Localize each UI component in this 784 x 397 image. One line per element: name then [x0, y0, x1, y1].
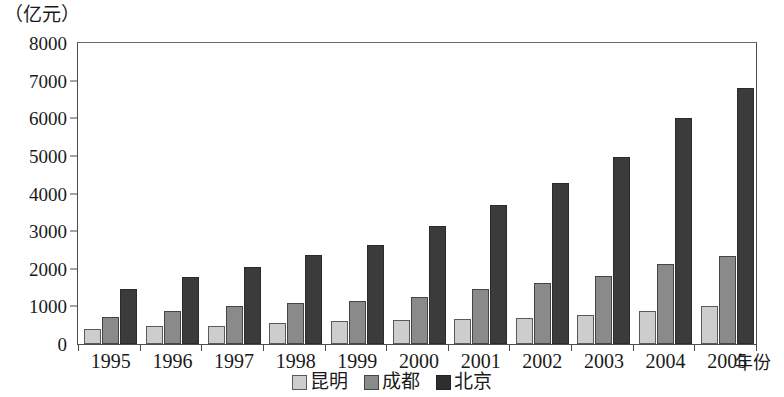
bar-cluster — [516, 43, 569, 344]
bar-昆明-2005 — [701, 306, 718, 344]
bar-cluster — [454, 43, 507, 344]
x-axis-tick-label: 1996 — [152, 350, 192, 372]
legend: 昆明成都北京 — [0, 372, 784, 392]
legend-swatch-icon — [436, 375, 451, 390]
bar-昆明-1997 — [208, 326, 225, 344]
bar-昆明-1995 — [84, 329, 101, 344]
x-axis-tick-mark — [756, 345, 757, 351]
bar-cluster — [639, 43, 692, 344]
bar-昆明-2000 — [393, 320, 410, 344]
y-axis-tick-mark — [70, 306, 77, 307]
bar-北京-1999 — [367, 245, 384, 344]
x-axis-tick-label: 2002 — [522, 350, 562, 372]
bar-昆明-2001 — [454, 319, 471, 344]
y-axis-tick-label: 7000 — [29, 71, 67, 90]
x-axis-tick-label: 2003 — [584, 350, 624, 372]
bar-成都-1997 — [226, 306, 243, 344]
bar-北京-1996 — [182, 277, 199, 344]
y-axis-tick-mark — [70, 268, 77, 269]
bar-北京-2002 — [552, 183, 569, 344]
bar-北京-2001 — [490, 205, 507, 344]
x-axis-tick-label: 1995 — [91, 350, 131, 372]
x-axis-tick-label: 1998 — [276, 350, 316, 372]
bar-cluster — [331, 43, 384, 344]
x-axis-tick-mark — [201, 345, 202, 351]
legend-label: 北京 — [454, 372, 492, 392]
bar-成都-2004 — [657, 264, 674, 344]
x-axis-tick-mark — [140, 345, 141, 351]
y-axis-tick-mark — [70, 118, 77, 119]
bar-昆明-2002 — [516, 318, 533, 344]
y-axis-tick-label: 8000 — [29, 34, 67, 53]
x-axis-tick-mark — [633, 345, 634, 351]
legend-label: 成都 — [382, 372, 420, 392]
bars-layer — [78, 43, 756, 344]
bar-chart: （亿元） 010002000300040005000600070008000 年… — [0, 0, 784, 397]
y-axis-tick-label: 2000 — [29, 259, 67, 278]
x-axis-tick-label: 1999 — [337, 350, 377, 372]
x-axis-tick-mark — [571, 345, 572, 351]
x-axis-tick-mark — [386, 345, 387, 351]
y-axis: 010002000300040005000600070008000 — [0, 42, 77, 345]
bar-cluster — [84, 43, 137, 344]
y-axis-tick-label: 4000 — [29, 184, 67, 203]
x-axis-tick-mark — [509, 345, 510, 351]
x-axis-tick-mark — [448, 345, 449, 351]
y-axis-tick-mark — [70, 155, 77, 156]
bar-成都-2000 — [411, 297, 428, 344]
legend-label: 昆明 — [310, 372, 348, 392]
legend-swatch-icon — [292, 375, 307, 390]
x-axis-tick-mark — [694, 345, 695, 351]
y-axis-tick-mark — [70, 80, 77, 81]
bar-成都-2002 — [534, 283, 551, 344]
bar-cluster — [146, 43, 199, 344]
y-axis-tick-label: 3000 — [29, 222, 67, 241]
bar-成都-1995 — [102, 317, 119, 344]
bar-成都-2005 — [719, 256, 736, 344]
bar-昆明-1998 — [269, 323, 286, 344]
bar-北京-1998 — [305, 255, 322, 344]
bar-cluster — [269, 43, 322, 344]
bar-成都-2003 — [595, 276, 612, 344]
bar-cluster — [577, 43, 630, 344]
bar-北京-2004 — [675, 118, 692, 344]
bar-昆明-2004 — [639, 311, 656, 344]
y-axis-tick-label: 6000 — [29, 109, 67, 128]
bar-成都-1998 — [287, 303, 304, 344]
y-axis-tick-label: 1000 — [29, 297, 67, 316]
bar-成都-2001 — [472, 289, 489, 344]
legend-item-昆明[interactable]: 昆明 — [292, 372, 348, 392]
x-axis-tick-label: 1997 — [214, 350, 254, 372]
bar-cluster — [208, 43, 261, 344]
bar-北京-1997 — [244, 267, 261, 345]
bar-成都-1996 — [164, 311, 181, 344]
legend-item-北京[interactable]: 北京 — [436, 372, 492, 392]
x-axis-tick-mark — [263, 345, 264, 351]
x-axis-tick-label: 2005 — [707, 350, 747, 372]
x-axis-tick-label: 2000 — [399, 350, 439, 372]
bar-昆明-1999 — [331, 321, 348, 344]
y-axis-tick-mark — [70, 231, 77, 232]
bar-cluster — [393, 43, 446, 344]
y-axis-unit-label: （亿元） — [4, 4, 80, 26]
x-axis-tick-label: 2001 — [461, 350, 501, 372]
bar-cluster — [701, 43, 754, 344]
bar-北京-2005 — [737, 88, 754, 344]
y-axis-tick-label: 5000 — [29, 146, 67, 165]
x-axis-tick-mark — [78, 345, 79, 351]
legend-item-成都[interactable]: 成都 — [364, 372, 420, 392]
x-axis-tick-mark — [325, 345, 326, 351]
bar-北京-2003 — [613, 157, 630, 344]
x-axis-tick-label: 2004 — [646, 350, 686, 372]
legend-swatch-icon — [364, 375, 379, 390]
bar-昆明-2003 — [577, 315, 594, 344]
bar-北京-1995 — [120, 289, 137, 344]
bar-成都-1999 — [349, 301, 366, 344]
y-axis-tick-mark — [70, 193, 77, 194]
bar-昆明-1996 — [146, 326, 163, 344]
bar-北京-2000 — [429, 226, 446, 344]
